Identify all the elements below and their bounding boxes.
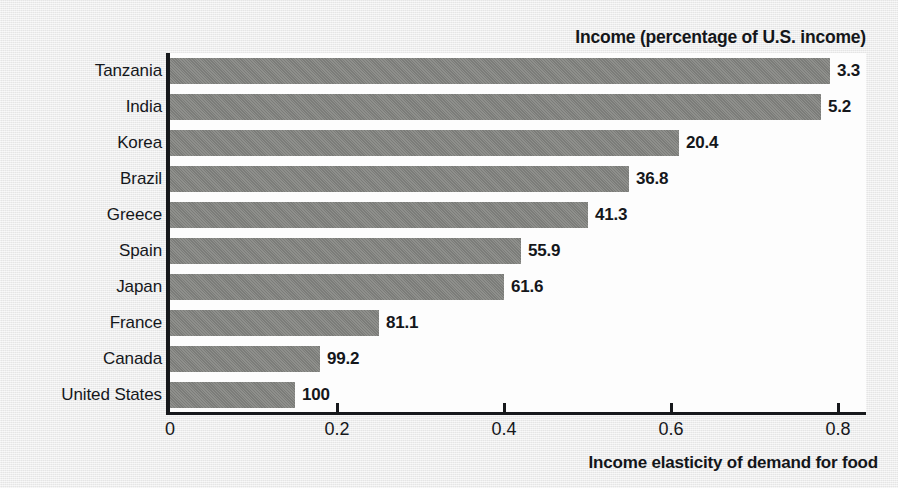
bar-row: India5.2 <box>0 89 898 125</box>
bar-with-value: 20.4 <box>170 130 718 156</box>
country-label: Canada <box>103 349 162 369</box>
bar-value-label: 61.6 <box>511 277 543 297</box>
bar <box>170 274 504 300</box>
bar <box>170 202 588 228</box>
bar-with-value: 5.2 <box>170 94 851 120</box>
income-legend-title: Income (percentage of U.S. income) <box>0 27 866 48</box>
x-tick-label: 0.8 <box>825 419 850 440</box>
bar-value-label: 20.4 <box>686 133 718 153</box>
bar <box>170 346 320 372</box>
country-label: Japan <box>116 277 162 297</box>
bar-row: Tanzania3.3 <box>0 53 898 89</box>
bar-with-value: 99.2 <box>170 346 359 372</box>
y-axis-line <box>166 53 170 415</box>
x-tick-label: 0.4 <box>491 419 516 440</box>
bar-with-value: 55.9 <box>170 238 560 264</box>
bar <box>170 166 629 192</box>
bar <box>170 58 830 84</box>
country-label: Brazil <box>120 169 162 189</box>
country-label: Tanzania <box>95 61 162 81</box>
bar <box>170 238 521 264</box>
bar-row: France81.1 <box>0 305 898 341</box>
country-label: France <box>110 313 162 333</box>
x-tick-mark <box>670 403 673 414</box>
x-tick-mark <box>837 403 840 414</box>
bar-value-label: 81.1 <box>386 313 418 333</box>
bar-chart-figure: Income (percentage of U.S. income) Tanza… <box>0 0 898 488</box>
bar-value-label: 99.2 <box>327 349 359 369</box>
bar-row: Spain55.9 <box>0 233 898 269</box>
country-label: Korea <box>117 133 162 153</box>
bar-row: Canada99.2 <box>0 341 898 377</box>
bar-with-value: 3.3 <box>170 58 860 84</box>
bar <box>170 382 295 408</box>
country-label: India <box>126 97 162 117</box>
bar-row: Brazil36.8 <box>0 161 898 197</box>
bar-value-label: 5.2 <box>828 97 851 117</box>
bar-row: United States100 <box>0 377 898 413</box>
bar-with-value: 36.8 <box>170 166 668 192</box>
country-label: United States <box>61 385 162 405</box>
bar <box>170 94 821 120</box>
bar-with-value: 100 <box>170 382 330 408</box>
bar <box>170 130 679 156</box>
x-tick-label: 0.6 <box>658 419 683 440</box>
bar-row: Korea20.4 <box>0 125 898 161</box>
bar-value-label: 41.3 <box>595 205 627 225</box>
bar-value-label: 36.8 <box>636 169 668 189</box>
x-tick-label: 0.2 <box>324 419 349 440</box>
x-tick-mark <box>503 403 506 414</box>
country-label: Spain <box>119 241 162 261</box>
bar-value-label: 3.3 <box>837 61 860 81</box>
bar-row: Japan61.6 <box>0 269 898 305</box>
bar-value-label: 55.9 <box>528 241 560 261</box>
x-axis-line <box>166 412 866 415</box>
bar-with-value: 61.6 <box>170 274 543 300</box>
bar-value-label: 100 <box>302 385 330 405</box>
bar-with-value: 41.3 <box>170 202 627 228</box>
bar <box>170 310 379 336</box>
country-label: Greece <box>107 205 162 225</box>
x-tick-mark <box>336 403 339 414</box>
bar-row: Greece41.3 <box>0 197 898 233</box>
bar-with-value: 81.1 <box>170 310 418 336</box>
x-tick-label: 0 <box>165 419 175 440</box>
x-axis-title: Income elasticity of demand for food <box>0 453 878 473</box>
